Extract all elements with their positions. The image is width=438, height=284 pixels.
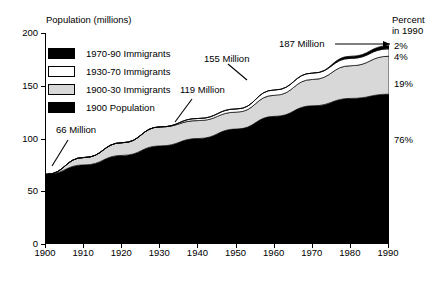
x-tick-label: 1900	[25, 247, 65, 258]
percent-label: 2%	[394, 40, 408, 51]
annotation-label: 119 Million	[180, 84, 225, 95]
y-axis-title: Population (millions)	[46, 14, 132, 25]
y-tick-label: 50	[8, 185, 38, 196]
legend-item: 1900 Population	[48, 98, 170, 116]
x-tick-mark	[236, 244, 237, 248]
x-tick-mark	[121, 244, 122, 248]
percent-label: 76%	[394, 134, 413, 145]
legend-item-label: 1900 Population	[86, 102, 155, 113]
y-tick-label: 150	[8, 80, 38, 91]
legend-swatch-icon	[48, 84, 75, 95]
x-tick-label: 1980	[330, 247, 370, 258]
legend-item: 1900-30 Immigrants	[48, 80, 170, 98]
y-tick-label: 100	[8, 133, 38, 144]
annotation-label: 187 Million	[279, 38, 324, 49]
x-tick-mark	[388, 244, 389, 248]
x-tick-label: 1970	[292, 247, 332, 258]
legend-item-label: 1970-90 Immigrants	[86, 48, 170, 59]
right-axis-title: Percent in 1990	[392, 14, 425, 36]
x-tick-label: 1930	[139, 247, 179, 258]
legend-item-label: 1900-30 Immigrants	[86, 84, 170, 95]
legend-item: 1930-70 Immigrants	[48, 62, 170, 80]
legend-swatch-icon	[48, 48, 75, 59]
x-tick-label: 1960	[254, 247, 294, 258]
x-tick-label: 1910	[63, 247, 103, 258]
x-tick-mark	[45, 244, 46, 248]
right-axis-title-line2: in 1990	[392, 25, 425, 36]
percent-label: 19%	[394, 78, 413, 89]
right-axis-title-line1: Percent	[392, 14, 425, 25]
legend-swatch-icon	[48, 102, 75, 113]
x-tick-mark	[350, 244, 351, 248]
legend-item-label: 1930-70 Immigrants	[86, 66, 170, 77]
chart-legend: 1970-90 Immigrants1930-70 Immigrants1900…	[48, 44, 170, 116]
x-tick-mark	[83, 244, 84, 248]
y-tick-label: 200	[8, 27, 38, 38]
x-tick-mark	[312, 244, 313, 248]
annotation-label: 155 Million	[204, 53, 249, 64]
legend-item: 1970-90 Immigrants	[48, 44, 170, 62]
x-tick-mark	[159, 244, 160, 248]
x-tick-label: 1990	[368, 247, 408, 258]
x-tick-label: 1950	[216, 247, 256, 258]
annotation-label: 66 Million	[56, 124, 96, 135]
x-tick-mark	[274, 244, 275, 248]
legend-swatch-icon	[48, 66, 75, 77]
population-immigration-area-chart: Population (millions) Percent in 1990 05…	[0, 0, 438, 284]
x-tick-label: 1920	[101, 247, 141, 258]
percent-label: 4%	[394, 51, 408, 62]
x-tick-label: 1940	[177, 247, 217, 258]
x-tick-mark	[197, 244, 198, 248]
